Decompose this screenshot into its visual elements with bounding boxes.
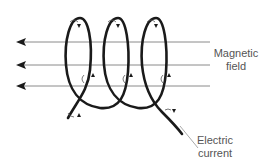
label-line: Electric bbox=[190, 134, 240, 147]
arrow-up-icon bbox=[91, 73, 95, 77]
arrow-down-icon bbox=[77, 24, 81, 28]
curl-arrow-icon bbox=[123, 75, 125, 83]
arrow-up-icon bbox=[129, 73, 133, 77]
electric-current-label: Electric current bbox=[190, 134, 240, 160]
arrow-down-icon bbox=[154, 24, 158, 28]
curl-arrow-icon bbox=[82, 75, 84, 83]
curl-arrow-icon bbox=[161, 75, 163, 83]
label-line: current bbox=[190, 147, 240, 160]
arrow-down-icon bbox=[116, 24, 120, 28]
label-line: Magnetic bbox=[206, 47, 266, 60]
curl-arrow-icon bbox=[165, 109, 171, 110]
solenoid-diagram: Magnetic field Electric current bbox=[0, 0, 266, 168]
label-line: field bbox=[206, 60, 266, 73]
arrow-down-icon bbox=[172, 109, 176, 113]
magnetic-field-lines bbox=[20, 42, 210, 86]
arrow-up-icon bbox=[77, 113, 81, 117]
arrow-up-icon bbox=[167, 73, 171, 77]
magnetic-field-label: Magnetic field bbox=[206, 47, 266, 73]
field-arrowheads bbox=[16, 38, 26, 90]
